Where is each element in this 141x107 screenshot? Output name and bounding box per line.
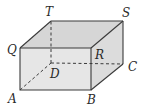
vertex-label-Q: Q [7, 43, 17, 57]
vertex-label-T: T [45, 5, 54, 19]
vertex-label-B: B [86, 93, 96, 107]
vertex-label-D: D [49, 67, 60, 81]
vertex-label-A: A [7, 92, 17, 106]
vertex-label-C: C [128, 60, 137, 74]
prism-diagram: T S Q R D C A B [0, 0, 141, 107]
vertex-label-S: S [122, 6, 130, 20]
vertex-label-R: R [94, 48, 104, 62]
